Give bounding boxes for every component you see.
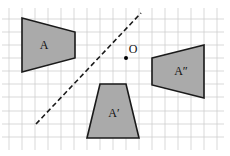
shape-label-a-prime: A′ [108, 107, 119, 119]
center-point-label: O [129, 43, 138, 55]
shape-label-a-double-prime: A″ [174, 65, 188, 77]
shape-label-a: A [40, 39, 49, 51]
transformation-diagram [0, 0, 230, 156]
center-point-o [124, 56, 128, 60]
